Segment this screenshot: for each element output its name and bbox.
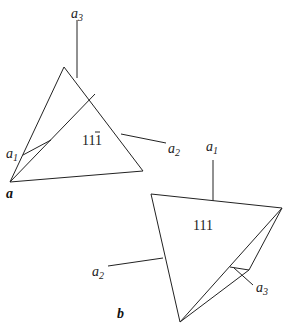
axis-a2-label: a2	[168, 141, 180, 158]
panel-a: a3 a1 a2 111 a	[6, 6, 180, 201]
axis-a2-label: a2	[92, 264, 104, 281]
panel-a-label: a	[6, 186, 13, 201]
panel-b-label: b	[117, 306, 124, 321]
axis-a1-label: a1	[6, 146, 18, 163]
crystal-face-diagram: a3 a1 a2 111 a a1 a2 a3 111 b	[0, 0, 291, 331]
axis-a1-label: a1	[206, 139, 218, 156]
panel-a-triangle	[10, 67, 143, 182]
panel-b-inner-edge-2	[230, 267, 249, 270]
panel-b-triangle	[151, 194, 282, 322]
axis-a3-label: a3	[256, 280, 268, 297]
face-label-11-bar1: 111	[82, 133, 102, 148]
panel-b: a1 a2 a3 111 b	[92, 139, 282, 322]
panel-a-inner-edge-2	[23, 140, 51, 155]
axis-a2-line	[121, 134, 166, 143]
axis-a3-label: a3	[71, 6, 83, 23]
axis-a3-line	[234, 268, 253, 285]
axis-a2-line	[108, 258, 163, 266]
face-label-111: 111	[193, 218, 213, 233]
